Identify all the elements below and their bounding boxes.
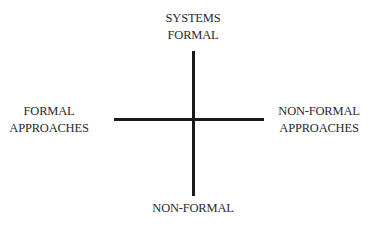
bottom-axis-label: NON-FORMAL xyxy=(133,200,253,217)
left-axis-label: FORMAL APPROACHES xyxy=(0,103,98,137)
right-label-line-1: NON-FORMAL xyxy=(264,103,374,120)
vertical-axis-line xyxy=(192,51,195,196)
right-axis-label: NON-FORMAL APPROACHES xyxy=(264,103,374,137)
top-label-line-2: FORMAL xyxy=(143,27,243,44)
top-axis-label: SYSTEMS FORMAL xyxy=(143,10,243,44)
horizontal-axis-line xyxy=(114,118,264,121)
left-label-line-2: APPROACHES xyxy=(0,120,98,137)
right-label-line-2: APPROACHES xyxy=(264,120,374,137)
top-label-line-1: SYSTEMS xyxy=(143,10,243,27)
bottom-label-line-1: NON-FORMAL xyxy=(133,200,253,217)
left-label-line-1: FORMAL xyxy=(0,103,98,120)
